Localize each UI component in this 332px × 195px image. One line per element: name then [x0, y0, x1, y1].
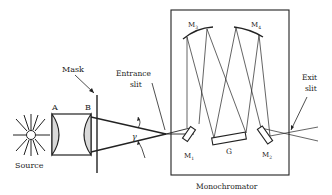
lens-b — [84, 114, 91, 155]
monochromator-diagram: Source A B Mask Entrance slit γ M3 M4 M1… — [0, 0, 332, 195]
ray-paths — [187, 28, 318, 141]
label-grating: G — [226, 147, 232, 156]
exit-slit-pointer — [291, 97, 307, 130]
source-icon — [13, 114, 50, 156]
label-mask: Mask — [62, 65, 84, 74]
label-exit-slit-1: Exit — [302, 73, 317, 82]
label-lens-a: A — [51, 103, 58, 112]
diagram-canvas: Source A B Mask Entrance slit γ M3 M4 M1… — [0, 0, 332, 195]
label-m1: M1 — [184, 152, 194, 161]
label-m4: M4 — [251, 21, 261, 30]
beam-upper — [91, 117, 166, 134]
grating-g — [212, 132, 247, 145]
beam-lower — [91, 134, 166, 152]
label-m3: M3 — [188, 21, 198, 30]
label-source: Source — [15, 161, 44, 170]
label-exit-slit-2: slit — [305, 84, 317, 93]
label-angle-gamma: γ — [132, 132, 137, 141]
label-monochromator: Monochromator — [196, 182, 258, 191]
entrance-slit-pointer — [152, 83, 165, 130]
label-entrance-slit-1: Entrance — [116, 69, 151, 78]
label-entrance-slit-2: slit — [130, 80, 142, 89]
lens-a — [52, 114, 59, 155]
label-lens-b: B — [85, 103, 91, 112]
condenser-lens-assembly — [52, 114, 91, 155]
label-m2: M2 — [262, 151, 272, 160]
